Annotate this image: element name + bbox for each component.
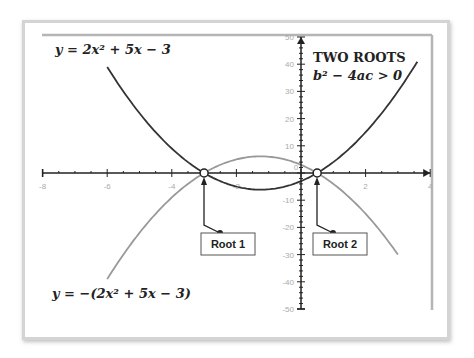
root-marker-1 xyxy=(200,169,208,177)
y-tick-label: -10 xyxy=(282,196,294,205)
y-tick-label: -50 xyxy=(282,305,294,314)
x-tick-label: -8 xyxy=(39,182,47,191)
chart-title: TWO ROOTS xyxy=(313,50,406,65)
chart-canvas: -8-6-4-2024-50-40-30-20-101020304050 y =… xyxy=(0,0,474,358)
root1-leader-line xyxy=(204,180,220,233)
y-tick-label: -30 xyxy=(282,251,294,260)
y-tick-label: 20 xyxy=(285,115,294,124)
root2-leader-line xyxy=(317,180,333,233)
y-tick-label: -20 xyxy=(282,223,294,232)
root1-callout-label: Root 1 xyxy=(211,238,245,250)
y-tick-label: -40 xyxy=(282,278,294,287)
curve-series-2 xyxy=(107,156,398,279)
y-tick-label: 40 xyxy=(285,60,294,69)
y-tick-label: 30 xyxy=(285,87,294,96)
root2-arrowhead-icon xyxy=(314,177,320,185)
equation-top-label: y = 2x² + 5x − 3 xyxy=(54,42,171,57)
root1-arrowhead-icon xyxy=(201,177,207,185)
y-axis-arrow-icon xyxy=(297,37,305,44)
root-marker-2 xyxy=(313,169,321,177)
discriminant-label: b² − 4ac > 0 xyxy=(313,68,402,83)
equation-bottom-label: y = −(2x² + 5x − 3) xyxy=(51,286,191,301)
x-tick-label: 0 xyxy=(294,163,299,172)
x-axis-arrow-icon xyxy=(423,169,430,177)
x-tick-label: 2 xyxy=(363,182,368,191)
y-tick-label: 50 xyxy=(285,33,294,42)
x-tick-label: -4 xyxy=(168,182,176,191)
x-tick-label: -6 xyxy=(104,182,112,191)
root2-callout-label: Root 2 xyxy=(323,238,357,250)
x-tick-label: -2 xyxy=(233,182,241,191)
curves-group xyxy=(107,62,417,279)
y-tick-label: 10 xyxy=(285,142,294,151)
x-tick-label: 4 xyxy=(428,182,433,191)
